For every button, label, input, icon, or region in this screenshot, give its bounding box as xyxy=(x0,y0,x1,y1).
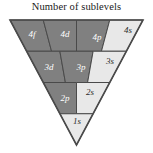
cell-label-2p: 2p xyxy=(61,93,71,103)
cell-label-4d: 4d xyxy=(61,29,71,39)
cell-label-3s: 3s xyxy=(105,56,115,66)
diagram-page: Number of sublevels 4f 4d 4p 4s 3d 3p 3s xyxy=(0,0,153,153)
row-n2: 2p 2s xyxy=(43,83,110,114)
cell-label-3p: 3p xyxy=(76,62,87,72)
cell-label-2s: 2s xyxy=(86,87,95,97)
cell-label-3d: 3d xyxy=(44,62,55,72)
cell-label-4p: 4p xyxy=(93,32,103,42)
cell-label-4s: 4s xyxy=(124,25,133,35)
sublevels-triangle-diagram: 4f 4d 4p 4s 3d 3p 3s 2p 2s 1s xyxy=(0,0,153,153)
cell-label-1s: 1s xyxy=(73,116,82,126)
row-n1: 1s xyxy=(60,114,93,145)
row-n4: 4f 4d 4p 4s xyxy=(10,20,143,51)
